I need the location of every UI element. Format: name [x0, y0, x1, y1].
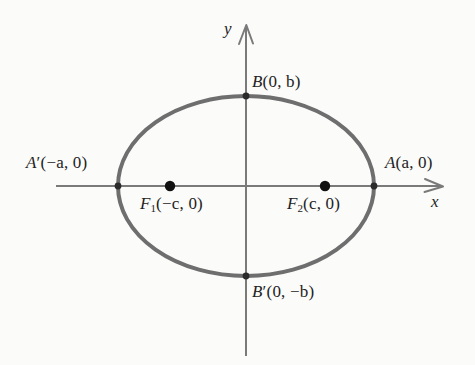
ellipse-figure: B(0, b) B′(0, −b) A′(−a, 0) A(a, 0) F1(−…: [0, 0, 475, 365]
label-bottom-vertex-coords: (0, −b): [267, 282, 315, 301]
label-focus-right-coords: (c, 0): [303, 194, 340, 213]
label-top-vertex: B(0, b): [252, 73, 301, 90]
label-right-vertex-coords: (a, 0): [396, 153, 433, 172]
x-axis-label: x: [431, 193, 439, 210]
label-left-vertex-coords: (−a, 0): [41, 153, 88, 172]
label-focus-right-name: F: [287, 194, 298, 213]
label-top-vertex-name: B: [252, 72, 263, 91]
label-right-vertex-name: A: [385, 153, 396, 172]
point-left-vertex: [115, 183, 122, 190]
label-top-vertex-coords: (0, b): [263, 72, 301, 91]
label-left-vertex-name: A: [26, 153, 37, 172]
label-focus-left-coords: (−c, 0): [156, 194, 203, 213]
label-bottom-vertex: B′(0, −b): [252, 283, 314, 300]
label-bottom-vertex-name: B: [252, 282, 263, 301]
label-right-vertex: A(a, 0): [385, 154, 433, 171]
label-left-vertex: A′(−a, 0): [26, 154, 87, 171]
label-focus-right: F2(c, 0): [287, 195, 340, 214]
ellipse-diagram-canvas: [0, 0, 475, 365]
label-focus-left-name: F: [140, 194, 151, 213]
point-bottom-vertex: [243, 273, 250, 280]
point-focus-right: [320, 181, 330, 191]
label-focus-left: F1(−c, 0): [140, 195, 203, 214]
point-top-vertex: [243, 93, 250, 100]
point-right-vertex: [371, 183, 378, 190]
y-axis-label: y: [224, 20, 232, 37]
point-focus-left: [165, 181, 175, 191]
